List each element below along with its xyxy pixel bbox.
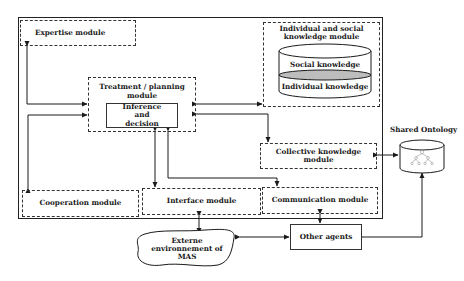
other-agents-label: Other agents [300, 233, 353, 242]
communication-module: Communication module [262, 187, 378, 214]
arrow-expertise-treatment [27, 46, 87, 104]
shared-ontology-cylinder [400, 140, 444, 173]
social-knowledge-label: Social knowledge [279, 61, 371, 70]
arrow-treatment-collective [197, 114, 268, 142]
expertise-module-label: Expertise module [35, 29, 105, 38]
communication-module-label: Communication module [272, 196, 368, 205]
arrow-cooperation-treatment [28, 115, 87, 188]
shared-ontology-label: Shared Ontology [390, 126, 454, 135]
cooperation-module: Cooperation module [22, 190, 139, 217]
environment-label-3: MAS [140, 253, 234, 262]
interface-module-label: Interface module [167, 197, 236, 206]
treatment-module-label: Treatment / planning module [93, 83, 191, 100]
inference-decision-label: Inference and decision [117, 103, 167, 129]
interface-module: Interface module [142, 188, 261, 215]
cooperation-module-label: Cooperation module [40, 199, 122, 208]
other-agents-box: Other agents [290, 224, 362, 250]
expertise-module: Expertise module [20, 20, 136, 46]
collective-knowledge-module: Collective knowledge module [260, 143, 377, 169]
knowledge-module-label-2: knowledge module [264, 33, 379, 42]
inference-decision-box: Inference and decision [106, 103, 178, 128]
individual-knowledge-label: Individual knowledge [279, 83, 371, 92]
collective-module-label-2: module [261, 156, 376, 165]
